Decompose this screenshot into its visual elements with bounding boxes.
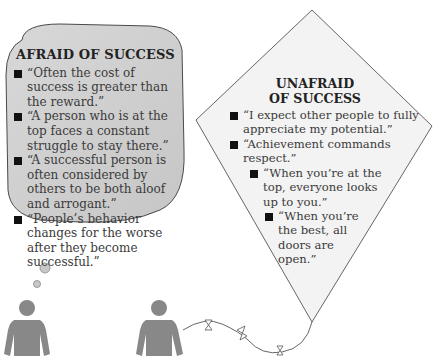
afraid-item: “Often the cost of success is greater th… — [14, 66, 184, 110]
unafraid-item: “When you’re the best, all doors are ope… — [265, 209, 375, 267]
unafraid-title: UNAFRAID OF SUCCESS — [250, 76, 380, 106]
kite-bow-3 — [277, 346, 283, 355]
thought-dot-small — [34, 281, 41, 288]
afraid-of-success-panel: AFRAID OF SUCCESS “Often the cost of suc… — [14, 48, 184, 270]
unafraid-title-line2: OF SUCCESS — [250, 91, 380, 106]
unafraid-list-2: “When you’re at the top, everyone looks … — [250, 166, 390, 209]
unafraid-title-line1: UNAFRAID — [250, 76, 380, 91]
kite-bow-1 — [205, 320, 212, 330]
unafraid-item: “When you’re at the top, everyone looks … — [250, 166, 390, 209]
kite-string — [183, 321, 312, 353]
figure-afraid — [4, 300, 50, 356]
afraid-item: “A successful person is often considered… — [14, 153, 184, 211]
afraid-list: “Often the cost of success is greater th… — [14, 66, 184, 270]
unafraid-item: “Achievement commands respect.” — [230, 137, 420, 166]
figure-unafraid — [136, 300, 183, 356]
afraid-item: “A person who is at the top faces a cons… — [14, 109, 184, 153]
afraid-title: AFRAID OF SUCCESS — [16, 48, 184, 63]
unafraid-list-3: “When you’re the best, all doors are ope… — [265, 209, 375, 267]
afraid-item: “People’s behavior changes for the worse… — [14, 212, 184, 270]
unafraid-list-1: “I expect other people to fully apprecia… — [230, 108, 420, 166]
unafraid-item: “I expect other people to fully apprecia… — [230, 108, 420, 137]
